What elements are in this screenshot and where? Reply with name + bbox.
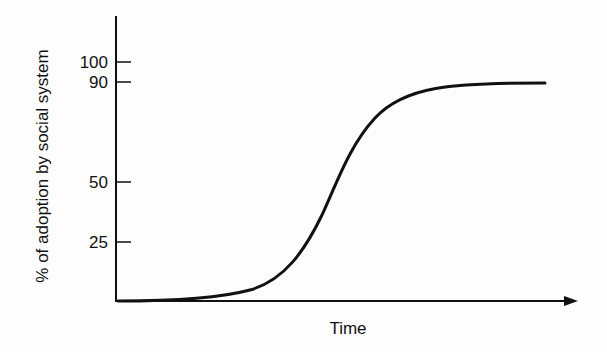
y-tick-label-90: 90 bbox=[89, 73, 108, 92]
x-axis-arrow-icon bbox=[564, 296, 578, 306]
adoption-s-curve bbox=[118, 83, 545, 301]
y-tick-label-25: 25 bbox=[89, 233, 108, 252]
s-curve-chart: 100 90 50 25 Time % of adoption by socia… bbox=[0, 0, 607, 352]
y-axis-title: % of adoption by social system bbox=[33, 49, 52, 282]
y-tick-label-100: 100 bbox=[80, 53, 108, 72]
y-tick-label-50: 50 bbox=[89, 173, 108, 192]
y-ticks: 100 90 50 25 bbox=[80, 53, 131, 252]
x-axis-title: Time bbox=[329, 319, 366, 338]
